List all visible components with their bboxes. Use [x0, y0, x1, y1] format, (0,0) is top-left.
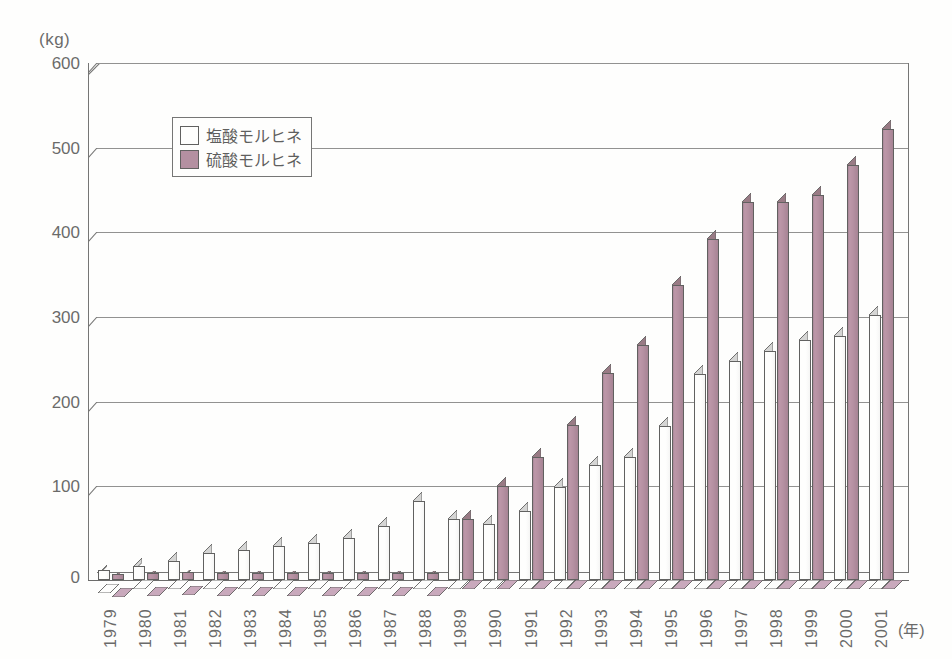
- bar-1998-sulfate: [777, 193, 798, 580]
- bar-1986-sulfate: [357, 564, 378, 580]
- bar-body: [777, 202, 789, 580]
- bar-1983-sulfate: [252, 564, 273, 580]
- y-tick-300: [88, 317, 98, 327]
- x-axis-label-1982: 1982: [207, 586, 225, 648]
- bar-body: [112, 574, 124, 580]
- bar-body: [847, 165, 859, 580]
- bar-1979-sulfate: [112, 565, 133, 580]
- x-axis-label-1998: 1998: [768, 586, 786, 648]
- bar-body: [799, 340, 811, 580]
- bar-face: [203, 553, 215, 580]
- bar-face: [882, 129, 894, 580]
- bar-body: [357, 573, 369, 580]
- bar-face: [637, 345, 649, 580]
- bar-body: [392, 573, 404, 580]
- bar-body: [834, 336, 846, 580]
- bar-face: [427, 573, 439, 580]
- bar-face: [659, 426, 671, 580]
- legend-label-hydrochloride: 塩酸モルヒネ: [206, 123, 302, 147]
- y-axis-label-200: 200: [28, 393, 80, 413]
- bar-body: [532, 457, 544, 580]
- bar-body: [147, 573, 159, 580]
- bar-face: [729, 361, 741, 580]
- bar-1997-sulfate: [742, 193, 763, 580]
- bar-body: [729, 361, 741, 580]
- bar-face: [764, 351, 776, 580]
- y-axis-label-100: 100: [28, 477, 80, 497]
- bar-face: [799, 340, 811, 580]
- bar-face: [98, 570, 110, 580]
- bar-1988-sulfate: [427, 564, 448, 580]
- bar-face: [168, 561, 180, 580]
- bar-face: [308, 543, 320, 580]
- gridline-600: [97, 63, 908, 64]
- x-axis-unit-label: (年): [898, 617, 925, 641]
- legend-item-sulfate: 硫酸モルヒネ: [180, 147, 304, 171]
- x-axis-label-1995: 1995: [663, 586, 681, 648]
- y-tick-100: [88, 486, 98, 496]
- bar-face: [238, 550, 250, 580]
- bar-1993-sulfate: [602, 364, 623, 580]
- y-tick-600: [88, 63, 98, 73]
- x-axis-label-1980: 1980: [137, 586, 155, 648]
- bar-1999-sulfate: [812, 186, 833, 580]
- bar-body: [672, 285, 684, 580]
- bar-1984-sulfate: [287, 564, 308, 580]
- x-axis-label-1992: 1992: [558, 586, 576, 648]
- bar-face: [694, 374, 706, 580]
- bar-face: [287, 573, 299, 580]
- bar-body: [203, 553, 215, 580]
- x-axis-label-1986: 1986: [347, 586, 365, 648]
- bar-body: [217, 573, 229, 580]
- bar-body: [133, 566, 145, 580]
- bar-face: [483, 524, 495, 580]
- bar-face: [497, 486, 509, 580]
- bar-body: [707, 239, 719, 580]
- x-axis-label-1987: 1987: [382, 586, 400, 648]
- x-axis-label-1991: 1991: [523, 586, 541, 648]
- bar-body: [462, 519, 474, 580]
- y-axis-label-600: 600: [28, 54, 80, 74]
- bar-body: [624, 457, 636, 580]
- x-axis-label-1996: 1996: [698, 586, 716, 648]
- bar-face: [532, 457, 544, 580]
- bar-body: [413, 501, 425, 580]
- bar-face: [624, 457, 636, 580]
- y-tick-500: [88, 148, 98, 158]
- x-axis-label-1988: 1988: [417, 586, 435, 648]
- x-axis-label-2001: 2001: [873, 586, 891, 648]
- bar-face: [357, 573, 369, 580]
- bar-face: [742, 202, 754, 580]
- bar-body: [869, 315, 881, 580]
- bar-1980-sulfate: [147, 564, 168, 580]
- bar-face: [869, 315, 881, 580]
- bar-body: [519, 511, 531, 580]
- bar-face: [252, 573, 264, 580]
- bar-face: [322, 573, 334, 580]
- bar-2000-sulfate: [847, 156, 868, 580]
- chart-plot-area: 6005004003002001000 19791980198119821983…: [0, 0, 952, 659]
- bar-1994-sulfate: [637, 336, 658, 580]
- bar-face: [182, 572, 194, 580]
- bar-body: [483, 524, 495, 580]
- bar-body: [252, 573, 264, 580]
- bar-1996-sulfate: [707, 230, 728, 580]
- x-axis-label-1994: 1994: [628, 586, 646, 648]
- bar-body: [742, 202, 754, 580]
- bar-face: [589, 465, 601, 580]
- x-axis-label-1979: 1979: [102, 586, 120, 648]
- bar-body: [694, 374, 706, 580]
- bar-1995-sulfate: [672, 276, 693, 580]
- x-axis-label-1983: 1983: [242, 586, 260, 648]
- bar-face: [133, 566, 145, 580]
- bar-face: [777, 202, 789, 580]
- x-axis-label-1999: 1999: [803, 586, 821, 648]
- bar-body: [554, 487, 566, 580]
- bar-1992-sulfate: [567, 416, 588, 580]
- bar-body: [812, 195, 824, 580]
- bar-face: [343, 538, 355, 580]
- bar-body: [238, 550, 250, 580]
- x-axis-label-1993: 1993: [593, 586, 611, 648]
- bar-face: [448, 519, 460, 580]
- bar-face: [812, 195, 824, 580]
